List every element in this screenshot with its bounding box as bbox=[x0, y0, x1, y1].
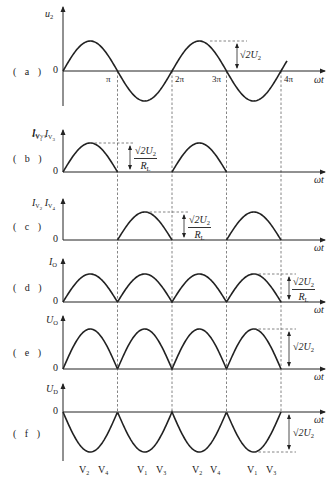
panel-label-b: ( b ) bbox=[13, 154, 45, 164]
y-axis-label-a: u2 bbox=[45, 9, 53, 19]
panel-label-d: ( d ) bbox=[13, 283, 45, 293]
amplitude-label-d: √2U2 RL bbox=[292, 276, 315, 303]
x-axis-label-f: ωt bbox=[314, 415, 324, 425]
x-axis-label-d: ωt bbox=[314, 305, 324, 315]
diode-label: V4 bbox=[210, 464, 220, 475]
amplitude-label-e: √2U2 bbox=[293, 342, 314, 352]
x-axis-label-c: ωt bbox=[314, 243, 324, 253]
origin-zero-a: 0 bbox=[53, 65, 58, 75]
diode-label: V3 bbox=[156, 464, 166, 475]
amplitude-label-a: √2U2 bbox=[240, 50, 261, 60]
panel-e bbox=[63, 316, 325, 369]
amplitude-label-c: √2U2 RL bbox=[188, 214, 211, 241]
panel-label-e: ( e ) bbox=[13, 348, 44, 358]
y-axis-label-e: UO bbox=[46, 315, 58, 325]
y-axis-label-b-text: IV1 IV3 bbox=[32, 129, 55, 140]
load-voltage-uo-waveform bbox=[63, 329, 281, 369]
origin-zero-b: 0 bbox=[53, 166, 58, 176]
panel-b bbox=[63, 130, 325, 172]
panel-a bbox=[63, 7, 325, 106]
diode-label: V1 bbox=[137, 464, 147, 475]
diode-label: V1 bbox=[247, 464, 257, 475]
origin-zero-c: 0 bbox=[53, 234, 58, 244]
panel-f bbox=[63, 384, 325, 461]
diode-label: V4 bbox=[98, 464, 108, 475]
panel-label-c: ( c ) bbox=[13, 222, 44, 232]
origin-zero-e: 0 bbox=[53, 363, 58, 373]
origin-zero-d: 0 bbox=[53, 296, 58, 306]
period-guide-lines bbox=[118, 71, 282, 412]
tick-pi: π bbox=[106, 75, 111, 84]
diode-label: V3 bbox=[266, 464, 276, 475]
rectifier-waveform-diagram bbox=[0, 0, 334, 481]
diode-voltage-ud-waveform bbox=[63, 412, 281, 452]
panel-label-f: ( f ) bbox=[13, 429, 43, 439]
tick-4pi: 4π bbox=[284, 75, 293, 84]
amplitude-label-b: √2U2 RL bbox=[134, 145, 157, 172]
y-axis-label-c: IV2 IV4 bbox=[32, 198, 55, 209]
x-axis-label-e: ωt bbox=[314, 372, 324, 382]
y-axis-label-f: UD bbox=[46, 384, 58, 394]
x-axis-label-b: ωt bbox=[314, 175, 324, 185]
x-axis-label-a: ωt bbox=[314, 75, 324, 85]
tick-3pi: 3π bbox=[212, 75, 221, 84]
panel-label-a: ( a ) bbox=[13, 67, 44, 77]
diode-label: V2 bbox=[79, 464, 89, 475]
origin-zero-f: 0 bbox=[53, 406, 58, 416]
tick-2pi: 2π bbox=[175, 75, 184, 84]
diode-label: V2 bbox=[192, 464, 202, 475]
y-axis-label-d: IO bbox=[49, 257, 57, 267]
amplitude-label-f: √2U2 bbox=[293, 428, 314, 438]
panel-d bbox=[63, 259, 325, 302]
